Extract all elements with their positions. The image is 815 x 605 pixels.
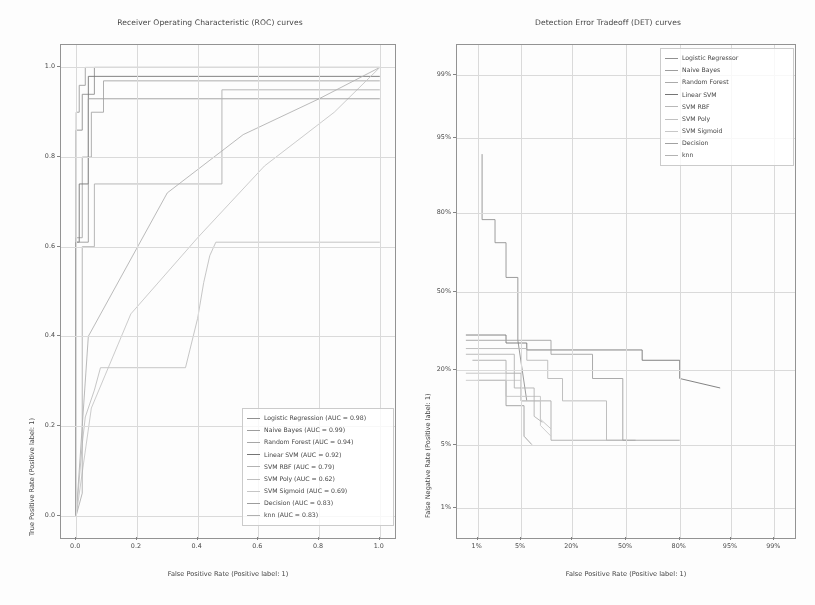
legend-item[interactable]: knn (AUC = 0.83) xyxy=(247,510,388,522)
x-tick-label: 0.4 xyxy=(192,542,202,550)
legend-line-swatch-icon xyxy=(665,155,678,156)
legend-item-label: knn xyxy=(682,152,693,158)
legend-item-label: Linear SVM xyxy=(682,92,717,98)
curve-random-forest xyxy=(472,360,626,440)
x-tickmark xyxy=(730,537,731,540)
y-tickmark xyxy=(453,137,456,138)
legend-item[interactable]: Linear SVM xyxy=(665,89,788,101)
x-tickmark xyxy=(136,537,137,540)
legend-line-swatch-icon xyxy=(665,94,678,95)
legend-item[interactable]: SVM Sigmoid (AUC = 0.69) xyxy=(247,485,388,497)
legend-item-label: Random Forest xyxy=(682,79,729,85)
y-tick-label: 0.8 xyxy=(28,152,55,160)
legend-item[interactable]: knn xyxy=(665,150,788,162)
legend-line-swatch-icon xyxy=(665,143,678,144)
y-tickmark xyxy=(57,425,60,426)
legend-line-swatch-icon xyxy=(247,418,260,419)
matplotlib-figure: Receiver Operating Characteristic (ROC) … xyxy=(0,0,815,605)
roc-panel: Receiver Operating Characteristic (ROC) … xyxy=(10,18,410,598)
legend-line-swatch-icon xyxy=(665,119,678,120)
legend-item[interactable]: Linear SVM (AUC = 0.92) xyxy=(247,449,388,461)
x-tickmark xyxy=(625,537,626,540)
y-tick-label: 80% xyxy=(424,208,451,216)
gridline-horizontal xyxy=(457,445,795,446)
legend-item[interactable]: SVM RBF (AUC = 0.79) xyxy=(247,461,388,473)
legend-item-label: Naive Bayes xyxy=(682,67,720,73)
legend-line-swatch-icon xyxy=(247,515,260,516)
legend-line-swatch-icon xyxy=(247,479,260,480)
legend-line-swatch-icon xyxy=(665,70,678,71)
legend-item-label: SVM Poly xyxy=(682,116,710,122)
legend-item[interactable]: Naive Bayes xyxy=(665,64,788,76)
det-title: Detection Error Tradeoff (DET) curves xyxy=(408,18,808,27)
x-tickmark xyxy=(571,537,572,540)
gridline-horizontal xyxy=(457,370,795,371)
y-tickmark xyxy=(57,335,60,336)
y-tick-label: 1.0 xyxy=(28,62,55,70)
legend-item[interactable]: SVM RBF xyxy=(665,101,788,113)
legend-item-label: Random Forest (AUC = 0.94) xyxy=(264,439,353,445)
legend-item-label: SVM RBF xyxy=(682,104,710,110)
x-tickmark xyxy=(477,537,478,540)
y-tickmark xyxy=(453,369,456,370)
legend-line-swatch-icon xyxy=(247,503,260,504)
x-tick-label: 0.2 xyxy=(131,542,141,550)
det-panel: Detection Error Tradeoff (DET) curves Fa… xyxy=(408,18,808,598)
legend-item[interactable]: SVM Sigmoid xyxy=(665,125,788,137)
legend-line-swatch-icon xyxy=(247,491,260,492)
legend-line-swatch-icon xyxy=(665,106,678,107)
y-tickmark xyxy=(57,156,60,157)
x-tick-label: 80% xyxy=(672,542,686,550)
legend-item-label: knn (AUC = 0.83) xyxy=(264,512,318,518)
x-tickmark xyxy=(379,537,380,540)
y-tick-label: 99% xyxy=(424,70,451,78)
legend-item[interactable]: Logistic Regressor xyxy=(665,52,788,64)
legend-item[interactable]: Naive Bayes (AUC = 0.99) xyxy=(247,424,388,436)
x-tick-label: 0.6 xyxy=(252,542,262,550)
x-tickmark xyxy=(197,537,198,540)
x-tickmark xyxy=(520,537,521,540)
legend-item[interactable]: Logistic Regression (AUC = 0.98) xyxy=(247,412,388,424)
y-tickmark xyxy=(453,74,456,75)
y-tickmark xyxy=(453,291,456,292)
x-tick-label: 0.8 xyxy=(313,542,323,550)
legend-item[interactable]: Random Forest xyxy=(665,76,788,88)
legend-item-label: Linear SVM (AUC = 0.92) xyxy=(264,452,341,458)
y-tick-label: 5% xyxy=(424,440,451,448)
gridline-horizontal xyxy=(61,67,395,68)
x-tick-label: 20% xyxy=(564,542,578,550)
x-tick-label: 5% xyxy=(515,542,525,550)
x-tick-label: 95% xyxy=(723,542,737,550)
y-tick-label: 20% xyxy=(424,365,451,373)
y-tick-label: 50% xyxy=(424,287,451,295)
det-y-axis-label: False Negative Rate (Positive label: 1) xyxy=(424,393,432,518)
legend-item-label: Naive Bayes (AUC = 0.99) xyxy=(264,427,345,433)
gridline-vertical xyxy=(137,45,138,538)
x-tick-label: 50% xyxy=(618,542,632,550)
y-tick-label: 0.0 xyxy=(28,511,55,519)
y-tick-label: 95% xyxy=(424,133,451,141)
legend-item-label: SVM RBF (AUC = 0.79) xyxy=(264,464,334,470)
legend-item[interactable]: Decision xyxy=(665,137,788,149)
gridline-vertical xyxy=(76,45,77,538)
y-tickmark xyxy=(57,246,60,247)
legend-item-label: SVM Sigmoid (AUC = 0.69) xyxy=(264,488,347,494)
legend-item[interactable]: SVM Poly xyxy=(665,113,788,125)
curve-naive-bayes xyxy=(478,380,532,444)
legend-line-swatch-icon xyxy=(247,454,260,455)
det-legend: Logistic RegressorNaive BayesRandom Fore… xyxy=(660,48,794,166)
gridline-horizontal xyxy=(457,213,795,214)
legend-item-label: Logistic Regressor xyxy=(682,55,738,61)
legend-item[interactable]: SVM Poly (AUC = 0.62) xyxy=(247,473,388,485)
y-tickmark xyxy=(57,515,60,516)
roc-title: Receiver Operating Characteristic (ROC) … xyxy=(10,18,410,27)
legend-item[interactable]: Random Forest (AUC = 0.94) xyxy=(247,436,388,448)
y-tickmark xyxy=(453,444,456,445)
x-tick-label: 99% xyxy=(766,542,780,550)
gridline-horizontal xyxy=(457,292,795,293)
legend-item-label: SVM Poly (AUC = 0.62) xyxy=(264,476,335,482)
legend-item[interactable]: Decision (AUC = 0.83) xyxy=(247,497,388,509)
det-x-axis-label: False Positive Rate (Positive label: 1) xyxy=(456,570,796,578)
y-tickmark xyxy=(453,507,456,508)
legend-item-label: Decision xyxy=(682,140,708,146)
